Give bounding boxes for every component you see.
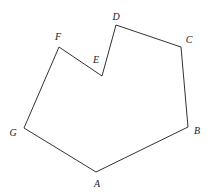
- vertex-label-a: A: [93, 178, 101, 189]
- vertex-label-c: C: [186, 34, 193, 45]
- vertex-label-e: E: [92, 54, 99, 65]
- polygon-ABCDEFG: [24, 25, 188, 172]
- vertex-label-g: G: [9, 127, 16, 138]
- vertex-label-d: D: [111, 11, 120, 22]
- vertex-label-f: F: [54, 31, 62, 42]
- vertex-label-b: B: [194, 125, 200, 136]
- heptagon-diagram: A B C D E F G: [0, 0, 209, 194]
